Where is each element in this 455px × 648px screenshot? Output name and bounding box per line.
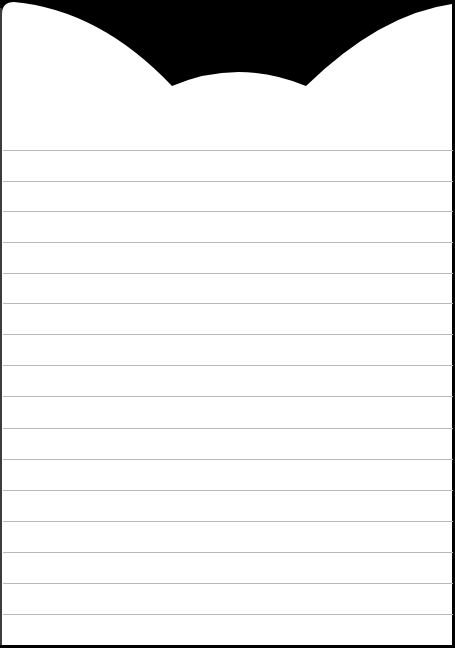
ruled-lines — [3, 0, 453, 648]
ruled-line — [3, 459, 453, 460]
note-paper — [0, 0, 455, 648]
ruled-line — [3, 490, 453, 491]
ruled-line — [3, 211, 453, 212]
ruled-line — [3, 273, 453, 274]
ruled-line — [3, 303, 453, 304]
ruled-line — [3, 552, 453, 553]
ruled-line — [3, 181, 453, 182]
ruled-line — [3, 334, 453, 335]
ruled-line — [3, 150, 453, 151]
ruled-line — [3, 242, 453, 243]
ruled-line — [3, 614, 453, 615]
ruled-line — [3, 365, 453, 366]
ruled-line — [3, 583, 453, 584]
ruled-line — [3, 521, 453, 522]
ruled-line — [3, 428, 453, 429]
paper-left-edge — [0, 8, 2, 648]
ruled-line — [3, 396, 453, 397]
